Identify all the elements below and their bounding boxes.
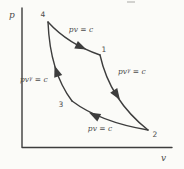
scan-artifact [127, 1, 135, 3]
arrowhead-3-to-4 [51, 64, 63, 78]
state-point-4: 4 [41, 10, 46, 19]
state-point-2: 2 [153, 130, 158, 139]
state-point-3: 3 [59, 100, 64, 109]
pv-diagram-figure: p v 4 1 2 3 pv = c pvγ = c pvγ = c pv = … [0, 0, 184, 169]
pressure-axis-label: p [9, 10, 15, 20]
pv-diagram-canvas: p v 4 1 2 3 pv = c pvγ = c pvγ = c pv = … [0, 0, 184, 169]
volume-axis-label: v [161, 153, 166, 163]
state-point-1: 1 [102, 45, 107, 54]
label-adiabat-right-rest: = c [130, 67, 146, 76]
label-adiabat-right: pvγ = c [118, 67, 146, 77]
label-isotherm-bottom: pv = c [88, 124, 113, 133]
arrowhead-2-to-3 [87, 109, 101, 122]
arrowhead-1-to-2 [110, 88, 123, 102]
label-isotherm-top: pv = c [69, 25, 94, 34]
arrowhead-4-to-1 [74, 41, 88, 53]
label-adiabat-left: pvγ = c [20, 75, 48, 85]
label-adiabat-left-rest: = c [32, 75, 48, 84]
